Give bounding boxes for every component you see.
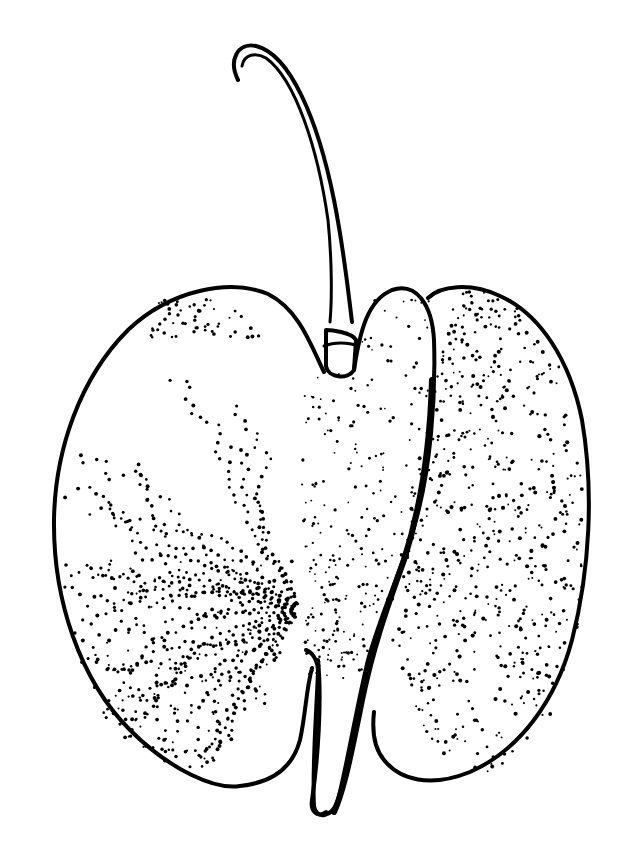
botanical-illustration bbox=[0, 0, 628, 865]
